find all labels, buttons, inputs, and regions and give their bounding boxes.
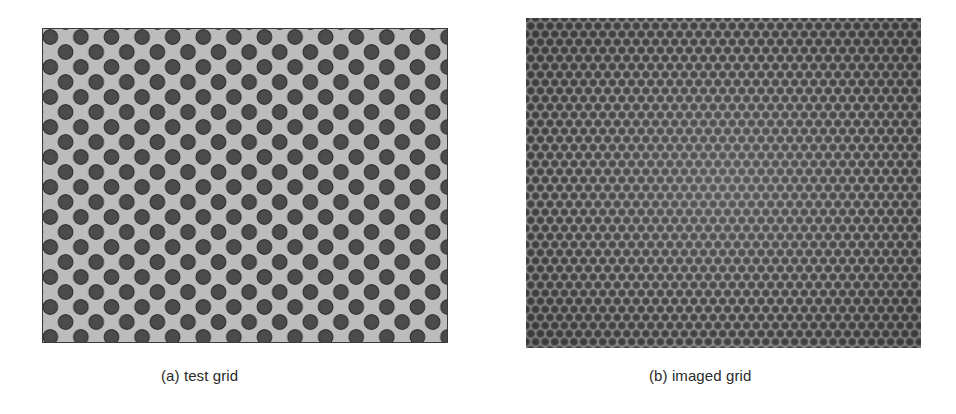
- test-grid-image: [42, 28, 448, 343]
- caption-imaged-grid: (b) imaged grid: [649, 367, 751, 384]
- imaged-grid-image: [526, 18, 921, 348]
- caption-test-grid: (a) test grid: [161, 367, 238, 384]
